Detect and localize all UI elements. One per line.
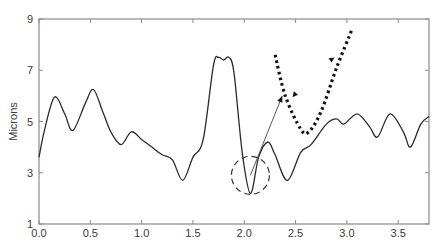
main-series-line bbox=[39, 56, 429, 193]
x-tick-label: 0.0 bbox=[31, 227, 46, 239]
x-tick-label: 3.5 bbox=[391, 227, 406, 239]
series-layer bbox=[39, 29, 429, 193]
y-tick-label: 1 bbox=[27, 218, 33, 230]
plot-frame bbox=[39, 19, 429, 224]
x-tick-label: 1.0 bbox=[134, 227, 149, 239]
y-axis-label: Microns bbox=[7, 102, 19, 141]
x-tick-label: 1.5 bbox=[185, 227, 200, 239]
y-tick-label: 3 bbox=[27, 167, 33, 179]
chart: 0.00.51.01.52.02.53.03.5 13579 Microns bbox=[0, 0, 444, 252]
direction-arrow-icon bbox=[293, 91, 298, 97]
direction-arrow-icon bbox=[329, 57, 335, 62]
y-tick-label: 7 bbox=[27, 64, 33, 76]
x-tick-label: 3.0 bbox=[339, 227, 354, 239]
dotted-series-line bbox=[275, 29, 352, 134]
x-axis-ticks: 0.00.51.01.52.02.53.03.5 bbox=[31, 19, 406, 239]
arrowhead-icon bbox=[277, 96, 282, 103]
y-tick-label: 5 bbox=[27, 116, 33, 128]
y-tick-label: 9 bbox=[27, 13, 33, 25]
callout-arrow-line bbox=[250, 96, 282, 175]
x-tick-label: 2.0 bbox=[237, 227, 252, 239]
x-tick-label: 2.5 bbox=[288, 227, 303, 239]
x-tick-label: 0.5 bbox=[83, 227, 98, 239]
y-axis-ticks: 13579 bbox=[27, 13, 429, 230]
